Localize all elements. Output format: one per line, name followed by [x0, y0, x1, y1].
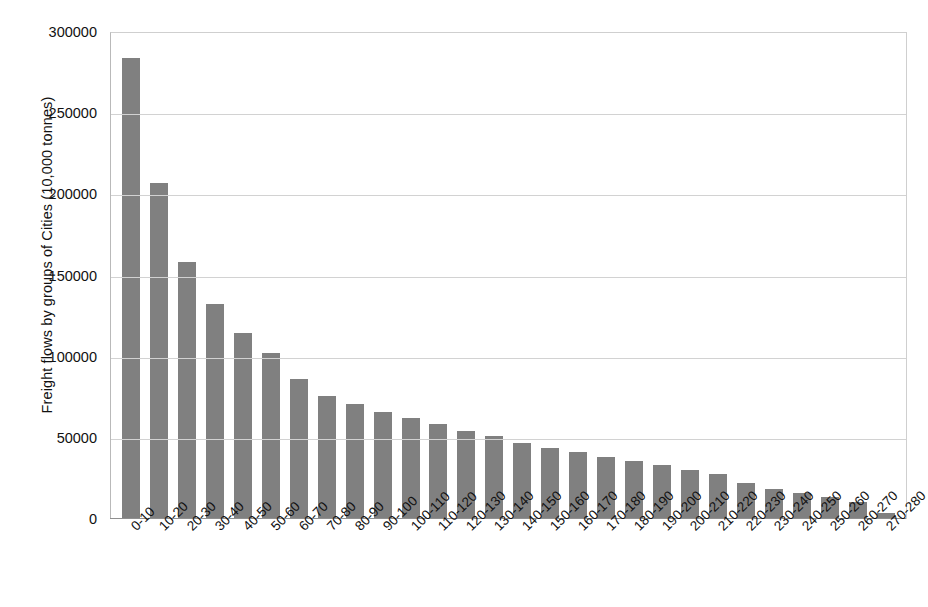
x-tick-label: 80-90: [352, 499, 387, 534]
x-tick-label: 30-40: [212, 499, 247, 534]
x-tick-label: 0-10: [128, 504, 158, 534]
x-tick-label: 20-30: [184, 499, 219, 534]
x-tick-label: 40-50: [240, 499, 275, 534]
x-tick-label: 10-20: [156, 499, 191, 534]
x-tick-label: 50-60: [268, 499, 303, 534]
x-tick-label: 60-70: [296, 499, 331, 534]
x-tick-label: 70-80: [324, 499, 359, 534]
